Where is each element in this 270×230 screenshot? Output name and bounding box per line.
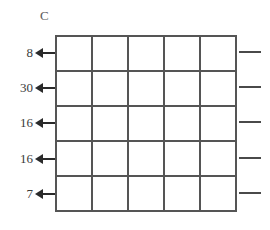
grid-cell[interactable] — [93, 142, 129, 177]
grid-cell[interactable] — [93, 107, 129, 142]
right-tick-mark — [239, 51, 261, 53]
grid-cell[interactable] — [129, 72, 165, 107]
grid-cell[interactable] — [93, 72, 129, 107]
left-arrow-icon — [35, 47, 55, 59]
grid-cell[interactable] — [57, 37, 93, 72]
right-tick-mark — [239, 86, 261, 88]
grid-cell[interactable] — [201, 72, 237, 107]
grid-cell[interactable] — [165, 177, 201, 212]
grid-cell[interactable] — [93, 177, 129, 212]
row-label-value: 8 — [27, 46, 36, 59]
row-label-value: 30 — [20, 81, 35, 94]
grid-cell[interactable] — [165, 142, 201, 177]
grid-cell[interactable] — [57, 177, 93, 212]
grid-cell[interactable] — [57, 107, 93, 142]
grid-cell[interactable] — [165, 37, 201, 72]
grid-cell[interactable] — [57, 142, 93, 177]
row-label-value: 16 — [20, 152, 35, 165]
row-label-group: 8 — [0, 35, 55, 70]
right-tick-mark — [239, 192, 261, 194]
grid-cell[interactable] — [129, 107, 165, 142]
grid-cell[interactable] — [57, 72, 93, 107]
row-label-group: 16 — [0, 141, 55, 176]
grid-cell[interactable] — [129, 142, 165, 177]
grid-cell[interactable] — [129, 177, 165, 212]
grid-table — [55, 35, 237, 212]
row-label-group: 30 — [0, 70, 55, 105]
grid-figure: C 8 30 — [0, 0, 270, 230]
right-tick-mark — [239, 121, 261, 123]
grid-cell[interactable] — [201, 142, 237, 177]
row-label-group: 7 — [0, 176, 55, 211]
row-label-value: 16 — [20, 116, 35, 129]
row-label-group: 16 — [0, 105, 55, 140]
grid-cell[interactable] — [201, 37, 237, 72]
right-tick-mark — [239, 157, 261, 159]
grid-cell[interactable] — [201, 107, 237, 142]
grid-cell[interactable] — [93, 37, 129, 72]
row-label-value: 7 — [27, 187, 36, 200]
grid-cell[interactable] — [201, 177, 237, 212]
grid-cell[interactable] — [129, 37, 165, 72]
left-arrow-icon — [35, 117, 55, 129]
corner-label-c: C — [40, 7, 60, 25]
left-arrow-icon — [35, 153, 55, 165]
grid-cell[interactable] — [165, 107, 201, 142]
left-arrow-icon — [35, 82, 55, 94]
left-arrow-icon — [35, 188, 55, 200]
grid-cell[interactable] — [165, 72, 201, 107]
